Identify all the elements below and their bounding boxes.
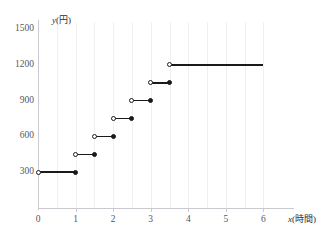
x-tick-label: 1 xyxy=(66,215,86,225)
gridline-vertical xyxy=(76,22,77,208)
plot-area xyxy=(38,22,286,208)
x-axis-title: x(時間) xyxy=(288,215,316,224)
gridline-vertical xyxy=(226,22,227,208)
x-tick-mark xyxy=(113,208,114,212)
step-segment xyxy=(38,171,76,173)
x-tick-label: 4 xyxy=(178,215,198,225)
x-tick-mark xyxy=(188,208,189,212)
y-tick-label: 600 xyxy=(0,131,34,141)
y-tick-label: 300 xyxy=(0,167,34,177)
gridline-vertical xyxy=(170,22,171,208)
open-endpoint-marker xyxy=(92,134,97,139)
gridline-vertical xyxy=(207,22,208,208)
x-tick-label: 2 xyxy=(103,215,123,225)
open-endpoint-marker xyxy=(36,170,41,175)
y-tick-label: 900 xyxy=(0,96,34,106)
x-tick-label: 3 xyxy=(141,215,161,225)
gridline-vertical xyxy=(132,22,133,208)
y-tick-label: 1500 xyxy=(0,24,34,34)
step-segment xyxy=(170,64,264,66)
closed-endpoint-marker xyxy=(92,152,97,157)
step-function-chart: 300600900120015000123456 y(円) x(時間) xyxy=(0,0,329,237)
x-tick-mark xyxy=(263,208,264,212)
gridline-vertical xyxy=(188,22,189,208)
gridline-vertical xyxy=(57,22,58,208)
gridline-vertical xyxy=(94,22,95,208)
x-tick-label: 5 xyxy=(216,215,236,225)
closed-endpoint-marker xyxy=(111,134,116,139)
gridline-vertical xyxy=(263,22,264,208)
gridline-vertical xyxy=(151,22,152,208)
open-endpoint-marker xyxy=(111,116,116,121)
x-tick-mark xyxy=(151,208,152,212)
x-tick-mark xyxy=(76,208,77,212)
y-tick-label: 1200 xyxy=(0,60,34,70)
x-tick-label: 0 xyxy=(28,215,48,225)
y-axis-title: y(円) xyxy=(52,16,71,25)
x-tick-mark xyxy=(226,208,227,212)
gridline-vertical xyxy=(113,22,114,208)
open-endpoint-marker xyxy=(73,152,78,157)
closed-endpoint-marker xyxy=(73,170,78,175)
gridline-vertical xyxy=(245,22,246,208)
x-tick-label: 6 xyxy=(253,215,273,225)
